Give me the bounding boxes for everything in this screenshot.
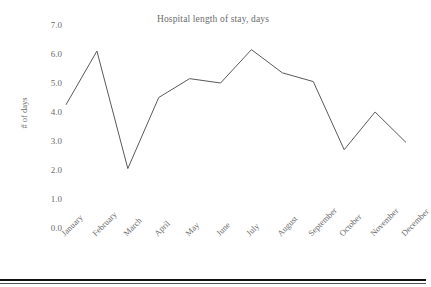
footer-rule-thin — [0, 283, 426, 284]
data-line-hospital-length-of-stay — [66, 50, 406, 169]
footer-rule — [0, 279, 426, 281]
y-axis-tick-label: 4.0 — [12, 107, 62, 117]
x-axis-tick-labels: JanuaryFebruaryMarchAprilMayJuneJulyAugu… — [66, 228, 406, 286]
y-axis-tick-label: 0.0 — [12, 223, 62, 233]
y-axis-tick-labels: 0.01.02.03.04.05.06.07.0 — [0, 0, 66, 287]
y-axis-tick-label: 3.0 — [12, 136, 62, 146]
y-axis-tick-label: 2.0 — [12, 165, 62, 175]
y-axis-tick-label: 1.0 — [12, 194, 62, 204]
y-axis-tick-label: 6.0 — [12, 49, 62, 59]
y-axis-tick-label: 7.0 — [12, 20, 62, 30]
y-axis-tick-label: 5.0 — [12, 78, 62, 88]
line-series-svg — [66, 25, 406, 228]
plot-area — [66, 25, 406, 228]
